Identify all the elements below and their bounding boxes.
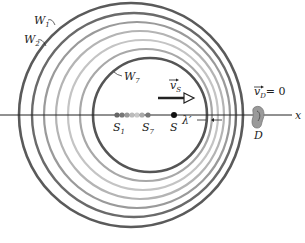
label-s7: S7 [142,121,155,136]
doppler-diagram: x S1 S7 S vS λ′ W1 W2 W7 vD= 0 D [0,0,305,243]
label-vs: vS [170,79,181,94]
velocity-arrow-source [158,93,194,103]
label-s1: S1 [113,121,125,136]
label-w7: W7 [124,70,140,85]
label-s: S [170,121,178,134]
label-wavelength: λ′ [181,114,192,127]
label-w1: W1 [34,14,50,29]
axis-label-x: x [295,109,302,122]
label-w2: W2 [24,33,40,48]
source-s [171,112,177,118]
label-detector: D [253,129,263,142]
detector-ear-icon [252,106,264,128]
